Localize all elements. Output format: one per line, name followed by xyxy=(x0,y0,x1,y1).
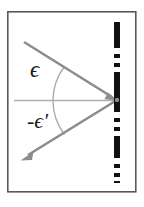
reflection-diagram xyxy=(0,0,144,207)
incidence-point xyxy=(115,98,119,102)
angle-of-reflection-label: -ϵ' xyxy=(27,110,48,132)
figure-container: ϵ -ϵ' xyxy=(0,0,144,207)
angle-of-incidence-label: ϵ xyxy=(30,58,39,81)
